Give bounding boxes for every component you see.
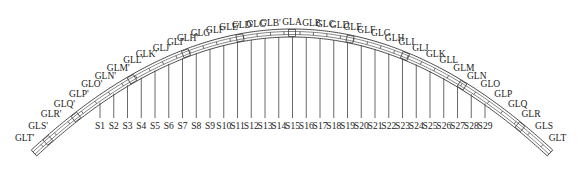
segment-label: GLT'	[15, 133, 35, 143]
hanger-label: S6	[164, 121, 174, 131]
segment-joint	[81, 111, 83, 113]
segment-label: GLP'	[69, 89, 89, 99]
segment-joint	[41, 145, 43, 147]
arch-line-2	[35, 35, 549, 155]
segment-label: GLT	[549, 133, 567, 143]
hanger-label: S2	[109, 121, 119, 131]
splice-box	[236, 34, 244, 42]
segment-joint	[380, 46, 381, 49]
segment-joint	[230, 38, 231, 41]
splice-box	[43, 135, 53, 145]
hanger-label: S29	[478, 121, 493, 131]
arch-rib	[31, 29, 552, 156]
segment-label: GLO'	[81, 79, 103, 89]
segment-label: GLQ'	[54, 99, 76, 109]
segment-joint	[528, 133, 530, 135]
splice-box	[71, 112, 81, 122]
segment-joint	[95, 101, 97, 103]
segment-joint	[394, 50, 395, 53]
segment-joint	[541, 145, 543, 147]
hanger-label: S9	[205, 121, 215, 131]
segment-label: GLP	[494, 89, 512, 99]
arch-line-0	[31, 29, 552, 150]
arch-line-1	[33, 32, 551, 152]
segment-joint	[340, 36, 341, 39]
segment-joint	[420, 62, 421, 65]
segment-joint	[149, 68, 150, 71]
segment-label: GLB'	[260, 18, 281, 28]
segment-joint	[216, 42, 217, 45]
segment-label: GLS	[535, 121, 553, 131]
splice-box	[346, 35, 354, 43]
segment-joint	[461, 83, 463, 86]
segment-joint	[474, 92, 476, 95]
segment-joint	[447, 76, 448, 79]
splice-box	[515, 122, 525, 132]
arch-line-3	[37, 37, 548, 156]
segment-joint	[501, 111, 503, 113]
arch-bridge-diagram: GLT'GLS'GLR'GLQ'GLP'GLO'GLN'GLM'GLL'GLK'…	[0, 0, 585, 169]
segment-joint	[176, 56, 177, 59]
segment-label: GLR	[522, 109, 542, 119]
hanger-labels: S1S2S3S4S5S6S7S8S9S10S11S12S13S14S15S16S…	[95, 121, 493, 131]
segment-joint	[108, 92, 110, 95]
hanger-label: S10	[216, 121, 231, 131]
segment-label: GLS'	[28, 121, 48, 131]
hanger-label: S4	[136, 121, 146, 131]
segment-joint	[54, 133, 56, 135]
segment-joint	[434, 68, 435, 71]
segment-joint	[162, 62, 163, 65]
hanger-label: S5	[150, 121, 160, 131]
hanger-label: S1	[95, 121, 105, 131]
segment-joint	[367, 42, 368, 45]
segment-label: GLR'	[41, 109, 62, 119]
segment-label: GLA	[282, 17, 302, 27]
splice-box	[289, 30, 296, 37]
hanger-label: S7	[177, 121, 187, 131]
segment-joint	[122, 83, 124, 86]
hanger-label: S3	[122, 121, 132, 131]
segment-label: GLQ	[508, 99, 528, 109]
segment-joint	[514, 122, 516, 124]
hanger-label: S11	[230, 121, 245, 131]
segment-joint	[68, 122, 70, 124]
segment-joint	[487, 101, 489, 103]
hanger-label: S8	[191, 121, 201, 131]
segment-joint	[203, 46, 204, 49]
